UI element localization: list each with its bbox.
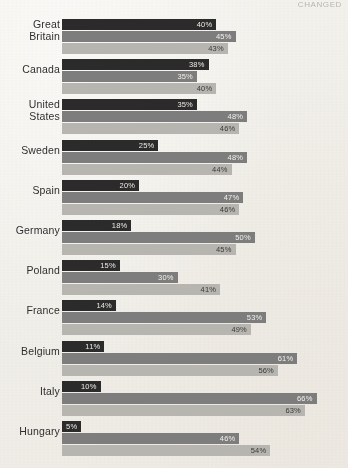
bar-chart-plot-area: Great Britain40%45%43%Canada38%35%40%Uni… xyxy=(0,0,348,468)
bar-stack: 20%47%46% xyxy=(62,180,243,215)
bar-series-2[interactable]: 61% xyxy=(62,353,297,364)
bar-stack: 14%53%49% xyxy=(62,300,266,335)
category-label: United States xyxy=(0,99,60,122)
bar-value-label: 14% xyxy=(96,300,112,311)
bar-value-label: 49% xyxy=(231,324,247,335)
bar-value-label: 41% xyxy=(201,284,217,295)
bar-stack: 5%46%54% xyxy=(62,421,270,456)
bar-series-2[interactable]: 45% xyxy=(62,31,236,42)
bar-stack: 10%66%63% xyxy=(62,381,317,416)
bar-series-1[interactable]: 10% xyxy=(62,381,101,392)
bar-stack: 35%48%46% xyxy=(62,99,247,134)
bar-stack: 40%45%43% xyxy=(62,19,236,54)
category-label: Great Britain xyxy=(0,19,60,42)
bar-series-3[interactable]: 54% xyxy=(62,445,270,456)
bar-series-1[interactable]: 20% xyxy=(62,180,139,191)
bar-value-label: 63% xyxy=(285,405,301,416)
bar-value-label: 46% xyxy=(220,204,236,215)
category-label: Belgium xyxy=(0,346,60,358)
category-label: Sweden xyxy=(0,145,60,157)
bar-series-2[interactable]: 47% xyxy=(62,192,243,203)
bar-value-label: 5% xyxy=(66,421,77,432)
bar-value-label: 54% xyxy=(251,445,267,456)
bar-series-3[interactable]: 43% xyxy=(62,43,228,54)
bar-series-3[interactable]: 56% xyxy=(62,365,278,376)
bar-series-1[interactable]: 38% xyxy=(62,59,209,70)
bar-value-label: 35% xyxy=(177,99,193,110)
bar-value-label: 40% xyxy=(197,19,213,30)
bar-series-3[interactable]: 45% xyxy=(62,244,236,255)
bar-value-label: 20% xyxy=(120,180,136,191)
bar-value-label: 40% xyxy=(197,83,213,94)
bar-value-label: 50% xyxy=(235,232,251,243)
bar-value-label: 45% xyxy=(216,244,232,255)
bar-value-label: 25% xyxy=(139,140,155,151)
category-label: Germany xyxy=(0,225,60,237)
bar-series-3[interactable]: 40% xyxy=(62,83,216,94)
category-label: Canada xyxy=(0,64,60,76)
bar-series-2[interactable]: 66% xyxy=(62,393,317,404)
bar-value-label: 56% xyxy=(258,365,274,376)
bar-value-label: 47% xyxy=(224,192,240,203)
category-label: Hungary xyxy=(0,426,60,438)
bar-series-3[interactable]: 63% xyxy=(62,405,305,416)
bar-series-3[interactable]: 46% xyxy=(62,204,239,215)
bar-series-2[interactable]: 30% xyxy=(62,272,178,283)
bar-stack: 11%61%56% xyxy=(62,341,297,376)
bar-value-label: 53% xyxy=(247,312,263,323)
chart-root: CHANGED Great Britain40%45%43%Canada38%3… xyxy=(0,0,348,468)
bar-value-label: 35% xyxy=(177,71,193,82)
bar-value-label: 48% xyxy=(228,111,244,122)
bar-series-1[interactable]: 11% xyxy=(62,341,104,352)
bar-value-label: 46% xyxy=(220,123,236,134)
bar-series-2[interactable]: 48% xyxy=(62,111,247,122)
bar-value-label: 30% xyxy=(158,272,174,283)
category-label: Spain xyxy=(0,185,60,197)
bar-value-label: 45% xyxy=(216,31,232,42)
category-label: Italy xyxy=(0,386,60,398)
category-label: France xyxy=(0,305,60,317)
bar-stack: 38%35%40% xyxy=(62,59,216,94)
bar-value-label: 38% xyxy=(189,59,205,70)
bar-value-label: 43% xyxy=(208,43,224,54)
bar-series-1[interactable]: 25% xyxy=(62,140,158,151)
bar-series-3[interactable]: 49% xyxy=(62,324,251,335)
bar-stack: 25%48%44% xyxy=(62,140,247,175)
bar-value-label: 15% xyxy=(100,260,116,271)
bar-series-3[interactable]: 41% xyxy=(62,284,220,295)
bar-series-3[interactable]: 46% xyxy=(62,123,239,134)
bar-stack: 18%50%45% xyxy=(62,220,255,255)
bar-series-2[interactable]: 48% xyxy=(62,152,247,163)
bar-value-label: 46% xyxy=(220,433,236,444)
bar-value-label: 61% xyxy=(278,353,294,364)
bar-series-2[interactable]: 50% xyxy=(62,232,255,243)
bar-series-1[interactable]: 18% xyxy=(62,220,131,231)
bar-series-1[interactable]: 15% xyxy=(62,260,120,271)
bar-series-2[interactable]: 53% xyxy=(62,312,266,323)
bar-value-label: 18% xyxy=(112,220,128,231)
bar-series-1[interactable]: 35% xyxy=(62,99,197,110)
bar-value-label: 10% xyxy=(81,381,97,392)
category-label: Poland xyxy=(0,265,60,277)
bar-value-label: 44% xyxy=(212,164,228,175)
bar-value-label: 48% xyxy=(228,152,244,163)
bar-series-1[interactable]: 40% xyxy=(62,19,216,30)
bar-value-label: 66% xyxy=(297,393,313,404)
bar-stack: 15%30%41% xyxy=(62,260,220,295)
bar-series-1[interactable]: 14% xyxy=(62,300,116,311)
bar-series-1[interactable]: 5% xyxy=(62,421,81,432)
bar-series-2[interactable]: 35% xyxy=(62,71,197,82)
bar-series-2[interactable]: 46% xyxy=(62,433,239,444)
bar-series-3[interactable]: 44% xyxy=(62,164,232,175)
bar-value-label: 11% xyxy=(85,341,100,352)
